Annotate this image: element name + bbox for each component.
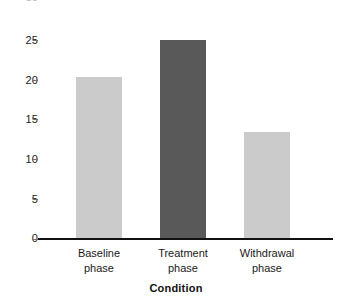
bar-chart: 30 25 20 15 10 5 0 Baseline phase Treatm… — [0, 0, 352, 305]
x-axis-label-line1: Withdrawal — [240, 247, 294, 259]
bar-treatment-phase — [160, 40, 206, 239]
plot-area: 30 25 20 15 10 5 0 Baseline phase Treatm… — [0, 0, 352, 305]
x-axis-line — [38, 238, 333, 240]
y-axis-tick-mark-5 — [33, 199, 38, 200]
bar-withdrawal-phase — [244, 132, 290, 239]
bar-baseline-phase — [76, 77, 122, 239]
y-axis-tick-mark-10 — [33, 159, 38, 160]
y-axis-tick-mark-20 — [33, 80, 38, 81]
x-axis-label-withdrawal-phase: Withdrawal phase — [212, 246, 322, 275]
y-axis-tick-mark-15 — [33, 119, 38, 120]
x-axis-label-line1: Baseline — [78, 247, 120, 259]
x-axis-title: Condition — [0, 282, 352, 294]
y-axis-tick-label-cropped: 30 — [4, 0, 38, 3]
x-axis-label-line1: Treatment — [158, 247, 208, 259]
x-axis-label-line2: phase — [212, 261, 322, 276]
y-axis-tick-mark-25 — [33, 40, 38, 41]
